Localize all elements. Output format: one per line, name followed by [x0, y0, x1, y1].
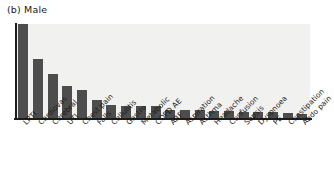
x-tick-slot: Cellulitis: [104, 120, 119, 178]
x-tick-slot: COPD AE: [148, 120, 163, 178]
x-tick-slot: Chest pain: [75, 120, 90, 178]
x-tick-slot: Constipation: [281, 120, 296, 178]
x-tick-slot: Confusion: [222, 120, 237, 178]
x-tick-slot: PE: [266, 120, 281, 178]
x-tick-slot: UTI: [60, 120, 75, 178]
x-tick-slot: Dyspnoea: [251, 120, 266, 178]
x-tick-slot: LRTI: [16, 120, 31, 178]
x-tick-slot: Gastro: [119, 120, 134, 178]
x-tick-slot: Falls: [90, 120, 105, 178]
bar-slot: [31, 24, 46, 118]
x-tick-slot: ARF: [163, 120, 178, 178]
x-tick-slot: Abdo pain: [295, 120, 310, 178]
x-tick-slot: Cardiovas: [31, 120, 46, 178]
bar: [18, 24, 28, 118]
x-tick-slot: Headache: [207, 120, 222, 178]
x-tick-slot: Metabolic: [134, 120, 149, 178]
panel-title: (b) Male: [7, 4, 47, 15]
x-tick-slot: Asthma: [192, 120, 207, 178]
x-tick-slot: Cerebral: [45, 120, 60, 178]
bar-slot: [16, 24, 31, 118]
bar: [33, 59, 43, 118]
x-tick-slot: Sepsis: [237, 120, 252, 178]
y-axis-line: [15, 23, 17, 119]
x-axis-tick-labels: LRTICardiovasCerebralUTIChest painFallsC…: [16, 120, 310, 178]
x-tick-slot: Aspiration: [178, 120, 193, 178]
